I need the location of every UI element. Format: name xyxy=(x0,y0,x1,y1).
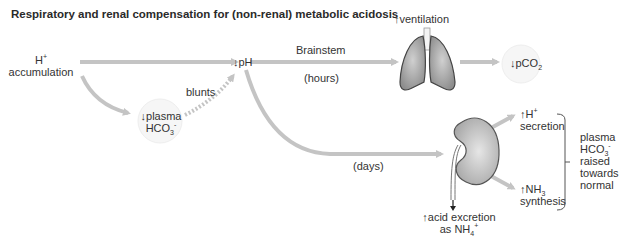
node-h-secretion: ↑H+ secretion xyxy=(520,108,565,132)
node-ph: ↓pH xyxy=(233,56,253,68)
lungs-icon xyxy=(400,28,455,90)
node-acid-excretion: ↑acid excretion as NH4+ xyxy=(414,211,504,235)
node-outcome: plasma HCO3- raised towards normal xyxy=(580,131,619,191)
label-blunts: blunts xyxy=(186,86,215,98)
arrow-h-to-hco3 xyxy=(82,76,128,113)
node-h-accumulation: H+ accumulation xyxy=(8,54,74,78)
node-ventilation: ↑ventilation xyxy=(394,13,449,25)
node-nh3-synthesis: ↑NH3 synthesis xyxy=(520,183,566,207)
label-brainstem: Brainstem xyxy=(296,44,346,56)
label-days: (days) xyxy=(353,160,384,172)
node-plasma-hco3: ↓plasma HCO3- xyxy=(138,110,184,134)
diagram-title: Respiratory and renal compensation for (… xyxy=(11,8,398,20)
kidney-icon xyxy=(450,118,499,211)
label-hours: (hours) xyxy=(304,72,339,84)
node-pco2: ↓pCO2 xyxy=(510,57,542,69)
